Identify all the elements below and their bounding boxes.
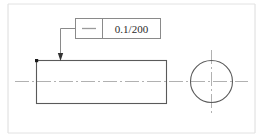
tolerance-value-text: 0.1/200 — [115, 23, 149, 35]
leader-arrowhead — [58, 53, 63, 61]
drawing-svg: 0.1/200 — [0, 0, 263, 138]
leader-line — [58, 29, 75, 62]
technical-drawing-canvas: 0.1/200 — [0, 0, 263, 138]
corner-reference-dot — [35, 59, 38, 62]
feature-control-frame[interactable]: 0.1/200 — [76, 19, 161, 39]
